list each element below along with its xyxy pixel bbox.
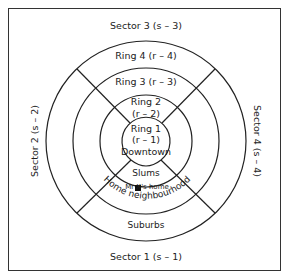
sector-2-label: Sector 2 (s – 2) <box>29 105 40 177</box>
ring-4-label: Ring 4 (r – 4) <box>115 50 177 61</box>
sector-3-label: Sector 3 (s – 3) <box>110 20 182 31</box>
ring-1-label: Ring 1 <box>131 123 161 134</box>
ring-3-label: Ring 3 (r – 3) <box>115 76 177 87</box>
slums-label: Slums <box>132 168 160 178</box>
ring-2-sublabel: (r – 2) <box>132 108 160 119</box>
concentric-city-diagram: Sector 3 (s – 3) Sector 1 (s – 1) Sector… <box>0 0 289 278</box>
ring-2-label: Ring 2 <box>131 96 161 107</box>
sector-1-label: Sector 1 (s – 1) <box>110 251 182 262</box>
downtown-label: Downtown <box>121 146 171 157</box>
ring-1-sublabel: (r – 1) <box>132 134 160 145</box>
ring-1-bottom-notch <box>131 160 161 166</box>
sector-4-label: Sector 4 (s – 4) <box>252 105 263 177</box>
suburbs-label: Suburbs <box>128 220 165 230</box>
